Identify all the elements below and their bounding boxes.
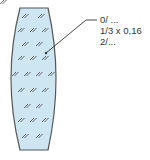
annotation-line-3: 2/...: [100, 36, 116, 47]
annotation-line-2: 1/3 x 0,16: [100, 25, 142, 36]
lens-diagram: [0, 0, 150, 160]
lens-shape: [11, 8, 56, 150]
annotation-line-1: 0/ ...: [100, 14, 118, 25]
